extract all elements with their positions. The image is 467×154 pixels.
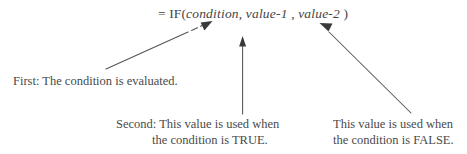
if-function-diagram: = IF(condition, value-1 , value-2 ) Firs… [0,0,467,154]
caption-second: Second: This value is used when the cond… [116,117,279,148]
formula-arg-condition: condition [186,6,239,21]
caption-second-line-1: Second: This value is used when [116,117,279,131]
caption-third: This value is used when the condition is… [333,117,454,148]
arrow-to-condition-icon [106,21,213,69]
arrow-to-value-1-icon [239,36,246,114]
formula-equals: = [158,6,166,21]
arrow-to-value-2-icon [320,23,412,113]
caption-first-line-1: First: The condition is evaluated. [13,74,178,88]
if-formula: = IF(condition, value-1 , value-2 ) [158,6,348,22]
caption-third-line-1: This value is used when [333,117,453,131]
caption-second-line-2: the condition is TRUE. [116,133,279,149]
formula-arg-value-2: value-2 [298,6,340,21]
formula-close-paren: ) [344,6,349,21]
formula-function-name: IF( [169,6,186,21]
formula-arg-value-1: value-1 [246,6,288,21]
caption-third-line-2: the condition is FALSE. [333,133,454,149]
caption-first: First: The condition is evaluated. [13,74,178,90]
